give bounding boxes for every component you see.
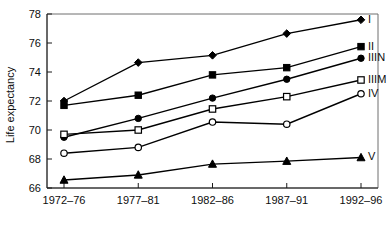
data-point-marker <box>209 95 215 101</box>
data-point-marker <box>135 115 141 121</box>
x-tick-label: 1977–81 <box>117 194 160 206</box>
data-point-marker <box>209 52 217 60</box>
y-tick-label: 70 <box>29 124 41 136</box>
data-point-marker <box>284 121 290 127</box>
y-axis-ticks: 66687072747678 <box>29 8 52 194</box>
data-point-marker <box>209 106 215 112</box>
y-tick-label: 74 <box>29 66 41 78</box>
x-tick-label: 1987–91 <box>265 194 308 206</box>
x-tick-label: 1972–76 <box>43 194 86 206</box>
chart-figure: 66687072747678 1972–761977–811982–861987… <box>0 0 391 226</box>
series-label-iv: IV <box>368 87 379 99</box>
x-tick-label: 1982–86 <box>191 194 234 206</box>
y-tick-label: 78 <box>29 8 41 20</box>
y-tick-label: 66 <box>29 182 41 194</box>
series-labels-layer: IIIIIINIIIMIVV <box>368 13 386 163</box>
data-point-marker <box>284 93 290 99</box>
data-point-marker <box>61 102 67 108</box>
series-iiim <box>61 77 364 138</box>
data-point-marker <box>135 92 141 98</box>
series-label-iiim: IIIM <box>368 73 386 85</box>
data-point-marker <box>61 150 67 156</box>
data-point-marker <box>135 127 141 133</box>
data-point-marker <box>134 59 142 67</box>
x-tick-label: 1992–96 <box>340 194 383 206</box>
series-i <box>60 16 365 105</box>
data-point-marker <box>284 76 290 82</box>
data-point-marker <box>358 91 364 97</box>
y-tick-label: 76 <box>29 37 41 49</box>
series-iiin <box>61 55 364 140</box>
series-v <box>60 153 365 183</box>
data-point-marker <box>284 64 290 70</box>
series-label-v: V <box>368 150 376 162</box>
y-axis-title: Life expectancy <box>4 66 16 143</box>
series-layer <box>60 16 365 183</box>
y-tick-label: 72 <box>29 95 41 107</box>
data-point-marker <box>135 144 141 150</box>
data-point-marker <box>357 16 365 24</box>
series-label-i: I <box>368 13 371 25</box>
series-label-ii: II <box>368 40 374 52</box>
y-tick-label: 68 <box>29 153 41 165</box>
line-chart: 66687072747678 1972–761977–811982–861987… <box>0 0 391 226</box>
data-point-marker <box>209 119 215 125</box>
data-point-marker <box>283 30 291 38</box>
series-label-iiin: IIIN <box>368 51 385 63</box>
data-point-marker <box>358 43 364 49</box>
x-axis-ticks: 1972–761977–811982–861987–911992–96 <box>43 183 383 206</box>
data-point-marker <box>358 77 364 83</box>
data-point-marker <box>209 72 215 78</box>
data-point-marker <box>358 55 364 61</box>
data-point-marker <box>61 131 67 137</box>
